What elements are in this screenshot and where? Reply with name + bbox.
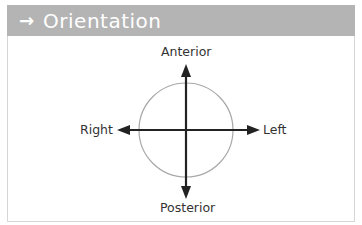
right-arrowhead-icon bbox=[247, 125, 260, 135]
label-anterior: Anterior bbox=[161, 46, 211, 59]
up-arrowhead-icon bbox=[181, 64, 191, 77]
orientation-diagram bbox=[0, 0, 362, 225]
label-right: Right bbox=[80, 124, 113, 137]
horizontal-axis bbox=[117, 125, 260, 135]
left-arrowhead-icon bbox=[117, 125, 130, 135]
label-posterior: Posterior bbox=[160, 202, 215, 215]
vertical-axis bbox=[181, 64, 191, 199]
label-left: Left bbox=[263, 124, 287, 137]
down-arrowhead-icon bbox=[181, 186, 191, 199]
